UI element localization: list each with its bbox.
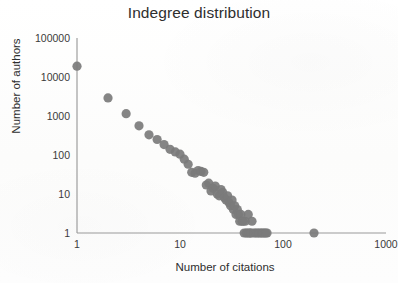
y-tick-label: 10000 bbox=[12, 71, 70, 83]
chart-container: Indegree distribution Number of authors … bbox=[0, 0, 398, 283]
x-tick-label: 10 bbox=[174, 238, 186, 250]
data-point bbox=[122, 109, 131, 118]
data-point bbox=[309, 228, 318, 237]
x-tick-label: 1000 bbox=[374, 238, 397, 250]
data-point bbox=[262, 228, 271, 237]
y-tick-label: 100000 bbox=[12, 32, 70, 44]
data-points bbox=[72, 62, 318, 238]
y-tick-label: 10 bbox=[12, 188, 70, 200]
data-point bbox=[184, 160, 193, 169]
y-tick-label: 1 bbox=[12, 227, 70, 239]
y-tick-label: 1000 bbox=[12, 110, 70, 122]
data-point bbox=[72, 62, 81, 71]
x-tick-label: 100 bbox=[274, 238, 292, 250]
data-point bbox=[103, 93, 112, 102]
data-point bbox=[134, 121, 143, 130]
data-point bbox=[247, 217, 256, 226]
y-tick-label: 100 bbox=[12, 149, 70, 161]
data-point bbox=[199, 168, 208, 177]
x-tick-label: 1 bbox=[74, 238, 80, 250]
data-point bbox=[144, 130, 153, 139]
